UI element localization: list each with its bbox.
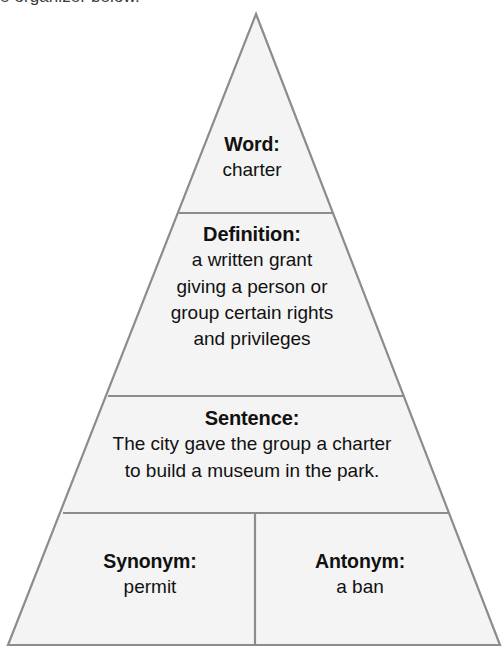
word-heading: Word: <box>132 133 372 157</box>
definition-line-4: and privileges <box>102 327 402 351</box>
synonym-value: permit <box>55 575 245 598</box>
sentence-heading: Sentence: <box>52 406 452 430</box>
pyramid-section-antonym: Antonym: a ban <box>265 550 455 598</box>
organizer-canvas: e organizer below. Word: charter Definit… <box>0 0 504 661</box>
pyramid-section-synonym: Synonym: permit <box>55 550 245 598</box>
pyramid-section-definition: Definition: a written grant giving a per… <box>102 222 402 352</box>
definition-line-3: group certain rights <box>102 301 402 325</box>
synonym-heading: Synonym: <box>55 550 245 574</box>
antonym-value: a ban <box>265 575 455 598</box>
definition-line-2: giving a person or <box>102 275 402 299</box>
pyramid-section-word: Word: charter <box>132 133 372 181</box>
sentence-line-1: The city gave the group a charter <box>52 432 452 456</box>
word-value: charter <box>132 158 372 181</box>
pyramid-section-sentence: Sentence: The city gave the group a char… <box>52 406 452 483</box>
antonym-heading: Antonym: <box>265 550 455 574</box>
definition-line-1: a written grant <box>102 248 402 272</box>
definition-heading: Definition: <box>102 222 402 246</box>
sentence-line-2: to build a museum in the park. <box>52 459 452 483</box>
